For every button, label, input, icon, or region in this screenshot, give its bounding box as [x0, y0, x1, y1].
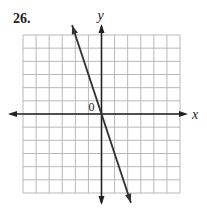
y-axis-label: y	[96, 8, 105, 23]
origin-label: 0	[89, 100, 95, 114]
x-axis-label: x	[191, 107, 199, 122]
axes	[8, 24, 188, 205]
coordinate-plane: x y 0	[0, 0, 207, 215]
